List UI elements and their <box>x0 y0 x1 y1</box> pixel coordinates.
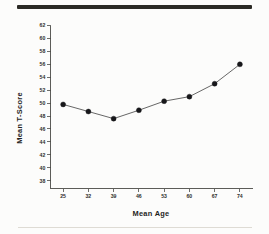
y-tick-label: 54 <box>40 74 46 80</box>
chart-axes <box>51 26 253 189</box>
y-axis-title: Mean T-Score <box>15 92 24 144</box>
line-chart: 38404244464850525456586062 2532394653606… <box>0 0 269 234</box>
x-tick-label: 74 <box>237 193 243 199</box>
y-tick-label: 44 <box>40 139 46 145</box>
x-tick-label: 46 <box>136 193 142 199</box>
data-point-marker <box>187 94 192 99</box>
y-tick-label: 62 <box>40 22 46 28</box>
data-point-marker <box>136 108 141 113</box>
data-series-layer <box>61 62 243 121</box>
data-point-marker <box>86 109 91 114</box>
y-tick-label: 42 <box>40 152 46 158</box>
x-tick-label: 60 <box>186 193 192 199</box>
x-axis-ticks: 2532394653606774 <box>60 189 243 200</box>
x-axis-title: Mean Age <box>132 209 169 218</box>
figure-canvas: 38404244464850525456586062 2532394653606… <box>0 0 269 234</box>
data-point-marker <box>162 99 167 104</box>
data-point-marker <box>111 116 116 121</box>
data-point-marker <box>212 81 217 86</box>
data-point-marker <box>237 62 242 67</box>
y-tick-label: 58 <box>40 48 46 54</box>
y-tick-label: 46 <box>40 126 46 132</box>
y-tick-label: 56 <box>40 61 46 67</box>
x-tick-label: 67 <box>212 193 218 199</box>
y-tick-label: 40 <box>40 165 46 171</box>
x-tick-label: 53 <box>161 193 167 199</box>
y-tick-label: 60 <box>40 35 46 41</box>
y-tick-label: 52 <box>40 87 46 93</box>
series-markers-mean-t-score <box>61 62 243 121</box>
x-tick-label: 32 <box>85 193 91 199</box>
data-point-marker <box>61 102 66 107</box>
y-tick-label: 48 <box>40 113 46 119</box>
y-tick-label: 50 <box>40 100 46 106</box>
y-axis-ticks: 38404244464850525456586062 <box>40 22 51 183</box>
x-tick-label: 25 <box>60 193 66 199</box>
x-tick-label: 39 <box>111 193 117 199</box>
y-tick-label: 38 <box>40 178 46 184</box>
